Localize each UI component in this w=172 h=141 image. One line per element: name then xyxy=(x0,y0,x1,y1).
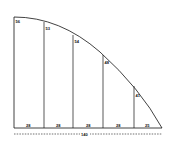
interval-label-5: 25 xyxy=(145,123,150,128)
ordinate-label-5: 41 xyxy=(136,93,141,98)
strip-area-diagram: 56 53 54 48 41 28 28 28 28 25 140 xyxy=(0,0,172,141)
interval-label-3: 28 xyxy=(86,123,91,128)
ordinate-label-1: 56 xyxy=(16,19,21,24)
interval-label-4: 28 xyxy=(116,123,121,128)
interval-label-1: 28 xyxy=(26,123,31,128)
ordinate-label-2: 53 xyxy=(46,26,51,31)
boundary-curve xyxy=(14,17,162,128)
interval-label-2: 28 xyxy=(56,123,61,128)
total-length-label: 140 xyxy=(81,132,88,137)
ordinate-label-3: 54 xyxy=(75,39,80,44)
ordinate-label-4: 48 xyxy=(105,60,110,65)
